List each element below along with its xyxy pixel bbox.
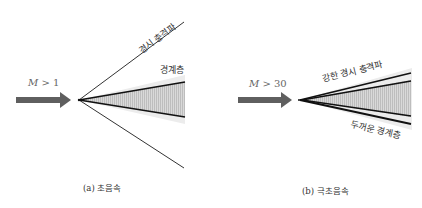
panel-supersonic: M > 1 경시 충격파 경계층 (a) 초음속 — [16, 20, 185, 193]
flow-arrow-icon — [238, 92, 292, 108]
oblique-shock-label: 경시 충격파 — [137, 20, 179, 55]
caption-b: (b) 극초음속 — [302, 186, 349, 196]
panel-hypersonic: M > 30 강한 경시 충격파 두꺼운 경계층 (b) 극초음속 — [238, 58, 412, 196]
mach-label: M > 1 — [27, 77, 59, 88]
boundary-layer-label: 경계층 — [160, 64, 184, 75]
caption-a: (a) 초음속 — [83, 183, 121, 193]
flow-arrow-icon — [16, 92, 71, 108]
mach-label: M > 30 — [248, 78, 287, 89]
diagram-canvas: M > 1 경시 충격파 경계층 (a) 초음속 M > 30 — [0, 0, 422, 208]
